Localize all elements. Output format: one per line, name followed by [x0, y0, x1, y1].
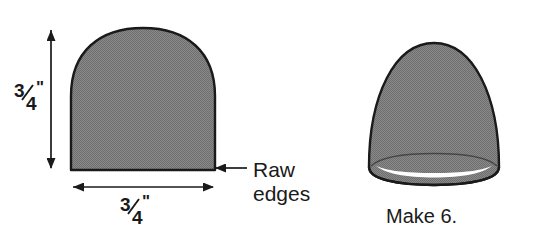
raw-edges-callout: Raw edges [216, 158, 310, 205]
diagram-canvas: 3 4 " 3 4 " Raw edges [0, 0, 535, 238]
make-quantity-caption: Make 6. [386, 205, 457, 227]
width-dimension-label: 3 4 " [120, 192, 150, 228]
height-dimension-label: 3 4 " [14, 78, 44, 114]
raw-edges-label-line2: edges [253, 182, 310, 205]
diagram-root: 3 4 " 3 4 " Raw edges [0, 0, 535, 238]
dome-body-shape [369, 43, 499, 185]
width-label-unit: " [142, 192, 150, 211]
flat-pattern-piece [71, 28, 215, 170]
height-label-unit: " [36, 78, 44, 97]
raw-edges-label-line1: Raw [253, 158, 296, 181]
assembled-dome-piece [369, 43, 499, 185]
flat-piece-shape [71, 28, 215, 170]
